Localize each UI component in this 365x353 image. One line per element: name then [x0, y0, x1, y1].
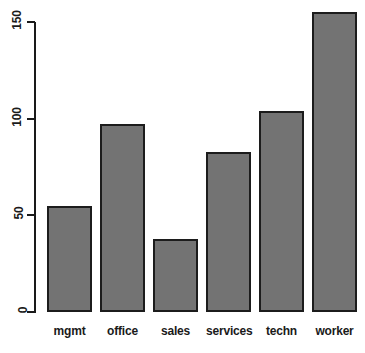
y-tick-2: [27, 118, 35, 120]
x-axis-label: sales: [153, 324, 198, 338]
x-axis-label: office: [100, 324, 145, 338]
x-axis-label: worker: [312, 324, 357, 338]
y-tick-label-1: 50: [0, 206, 26, 220]
y-tick-1: [27, 214, 35, 216]
bar-chart: 0 50 100 150 mgmt office sales services …: [0, 0, 365, 353]
bar[interactable]: [206, 152, 251, 312]
x-axis-label: mgmt: [47, 324, 92, 338]
bar[interactable]: [259, 111, 304, 312]
x-axis-label: techn: [259, 324, 304, 338]
y-tick-label-0: 0: [0, 303, 26, 317]
bar[interactable]: [47, 206, 92, 312]
bar[interactable]: [100, 124, 145, 312]
y-tick-label-2: 100: [0, 110, 26, 124]
bar[interactable]: [153, 239, 198, 312]
plot-area: 0 50 100 150 mgmt office sales services …: [0, 0, 365, 353]
y-tick-3: [27, 21, 35, 23]
bar[interactable]: [312, 12, 357, 312]
y-axis-line: [34, 22, 36, 313]
x-axis-label: services: [206, 324, 251, 338]
y-tick-label-3: 150: [0, 13, 26, 27]
